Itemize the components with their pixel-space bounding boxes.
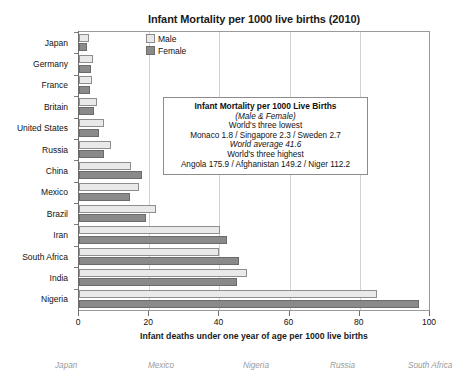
x-tick-label-20: 20: [143, 317, 152, 327]
bar-male: [79, 76, 92, 84]
bar-group: [79, 75, 430, 96]
bottom-caption-row: JapanMexicoNigeriaRussiaSouth Africa: [0, 361, 458, 372]
bar-group: [79, 32, 430, 53]
y-tick: [74, 289, 78, 290]
y-axis-label-india: India: [50, 273, 68, 283]
chart-title: Infant Mortality per 1000 live births (2…: [78, 13, 430, 25]
y-tick: [74, 160, 78, 161]
bar-male: [79, 226, 220, 234]
legend: Male Female: [146, 33, 186, 57]
info-box-line-5: World's three highest: [167, 150, 364, 160]
y-axis-label-germany: Germany: [33, 59, 68, 69]
y-tick: [74, 139, 78, 140]
x-tick-label-60: 60: [284, 317, 293, 327]
y-axis-label-france: France: [42, 80, 68, 90]
bar-male: [79, 162, 131, 170]
x-tick-60: [289, 311, 290, 316]
legend-label-male: Male: [158, 34, 176, 44]
y-tick: [74, 32, 78, 33]
info-box-line-0: Infant Mortality per 1000 Live Births: [167, 102, 364, 112]
x-tick-80: [359, 311, 360, 316]
bar-group: [79, 246, 430, 267]
bar-male: [79, 269, 247, 277]
bar-male: [79, 119, 104, 127]
bar-female: [79, 193, 130, 201]
y-axis-label-britain: Britain: [44, 102, 68, 112]
x-tick-20: [148, 311, 149, 316]
x-tick-40: [218, 311, 219, 316]
info-box-line-2: World's three lowest: [167, 121, 364, 131]
legend-swatch-male-icon: [146, 34, 155, 43]
y-axis-label-japan: Japan: [45, 38, 68, 48]
bar-female: [79, 150, 104, 158]
bottom-caption-item-1: Mexico: [148, 361, 174, 370]
x-tick-label-0: 0: [76, 317, 81, 327]
bar-female: [79, 214, 146, 222]
bar-male: [79, 290, 377, 298]
y-axis-label-nigeria: Nigeria: [41, 294, 68, 304]
y-axis-label-iran: Iran: [53, 230, 68, 240]
legend-item-female: Female: [146, 45, 186, 56]
bottom-caption-item-4: South Africa: [408, 361, 452, 370]
y-tick: [74, 224, 78, 225]
info-box-line-6: Angola 175.9 / Afghanistan 149.2 / Niger…: [167, 160, 364, 170]
bar-female: [79, 86, 90, 94]
bar-group: [79, 289, 430, 310]
y-tick: [74, 96, 78, 97]
y-tick: [74, 203, 78, 204]
y-tick: [74, 267, 78, 268]
bar-female: [79, 257, 239, 265]
bar-group: [79, 224, 430, 245]
bar-male: [79, 183, 139, 191]
x-tick-label-40: 40: [214, 317, 223, 327]
bottom-caption-item-0: Japan: [55, 361, 77, 370]
bottom-caption-item-3: Russia: [330, 361, 355, 370]
bar-female: [79, 171, 142, 179]
bar-group: [79, 267, 430, 288]
x-tick-label-80: 80: [354, 317, 363, 327]
bar-female: [79, 107, 94, 115]
bar-female: [79, 129, 99, 137]
info-box-line-3: Monaco 1.8 / Singapore 2.3 / Sweden 2.7: [167, 131, 364, 141]
y-axis-label-united-states: United States: [17, 123, 68, 133]
y-tick: [74, 246, 78, 247]
x-tick-100: [429, 311, 430, 316]
info-box-line-4: World average 41.6: [167, 140, 364, 150]
bar-group: [79, 182, 430, 203]
info-box: Infant Mortality per 1000 Live Births(Ma…: [163, 97, 368, 175]
y-axis-label-brazil: Brazil: [47, 209, 68, 219]
y-axis-label-south-africa: South Africa: [22, 252, 68, 262]
bar-female: [79, 65, 91, 73]
y-axis-label-china: China: [46, 166, 68, 176]
bar-male: [79, 248, 219, 256]
bar-male: [79, 34, 89, 42]
bar-male: [79, 98, 97, 106]
bar-female: [79, 300, 419, 308]
y-axis-label-mexico: Mexico: [41, 187, 68, 197]
bar-female: [79, 236, 227, 244]
bar-male: [79, 141, 111, 149]
y-axis-labels: JapanGermanyFranceBritainUnited StatesRu…: [0, 32, 74, 310]
bar-male: [79, 205, 156, 213]
bar-female: [79, 278, 237, 286]
bar-group: [79, 203, 430, 224]
chart-page: Infant Mortality per 1000 live births (2…: [0, 0, 458, 372]
y-tick: [74, 75, 78, 76]
x-axis-title: Infant deaths under one year of age per …: [78, 331, 430, 341]
y-tick: [74, 53, 78, 54]
y-tick: [74, 182, 78, 183]
bar-group: [79, 53, 430, 74]
y-tick: [74, 118, 78, 119]
y-axis-label-russia: Russia: [42, 145, 68, 155]
bottom-caption-item-2: Nigeria: [243, 361, 269, 370]
bar-male: [79, 55, 93, 63]
x-axis-ticks: 020406080100: [78, 311, 430, 316]
info-box-line-1: (Male & Female): [167, 112, 364, 122]
legend-label-female: Female: [158, 46, 186, 56]
x-tick-0: [78, 311, 79, 316]
bar-female: [79, 43, 87, 51]
legend-item-male: Male: [146, 33, 186, 44]
legend-swatch-female-icon: [146, 46, 155, 55]
x-tick-label-100: 100: [422, 317, 436, 327]
